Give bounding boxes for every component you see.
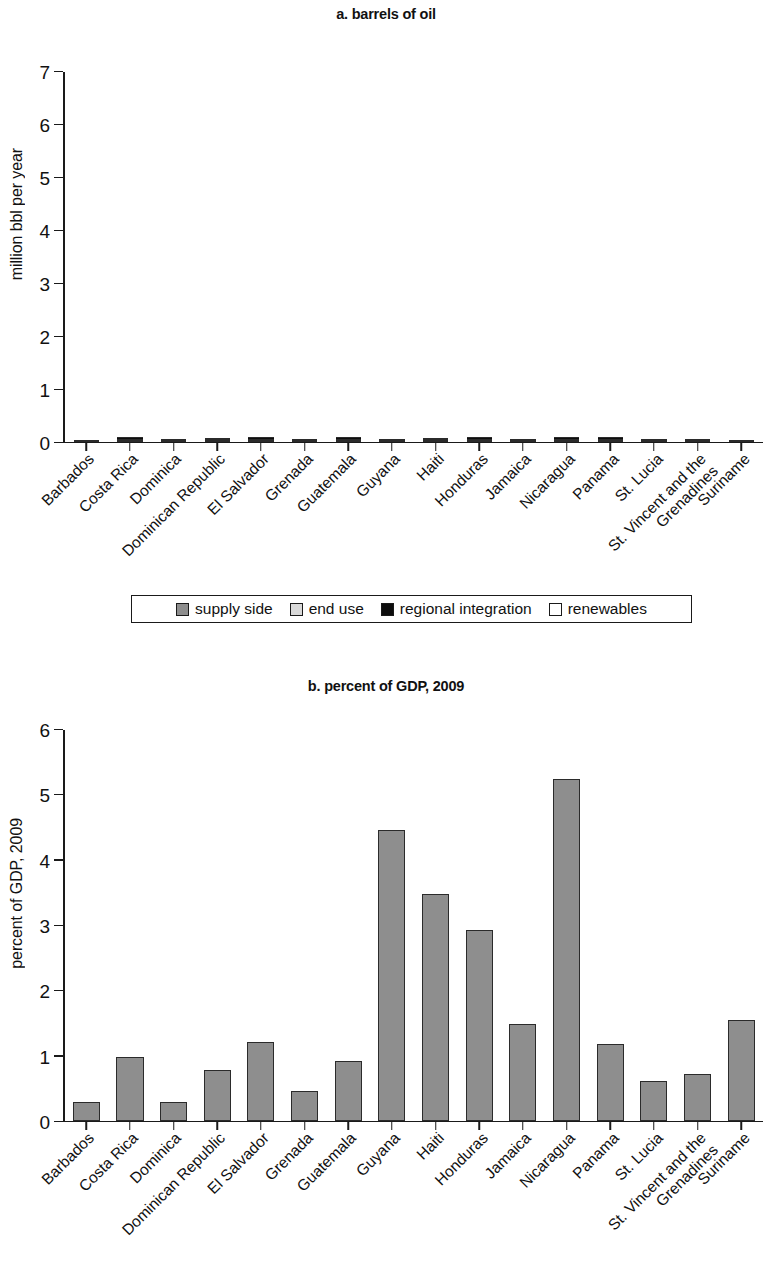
x-label-slot: Nicaragua [544, 1129, 588, 1139]
bar-slot-suriname [719, 72, 763, 442]
x-label-slot: Barbados [63, 1129, 107, 1139]
panel-a-x-axis [63, 442, 763, 444]
bar-slot-haiti [414, 730, 458, 1121]
bar[interactable] [553, 779, 580, 1120]
bar-slot-guatemala [326, 72, 370, 442]
bar-slot-dominican-republic [195, 730, 239, 1121]
x-label-slot: St. Lucia [632, 1129, 676, 1139]
x-label-slot: Costa Rica [107, 450, 151, 460]
bar-slot-costa-rica [108, 730, 152, 1121]
bar[interactable] [204, 1070, 231, 1120]
bar-slot-dominica [152, 72, 196, 442]
y-tick-4 [54, 230, 63, 232]
panel-b-bar-group [65, 730, 764, 1121]
bar[interactable] [466, 930, 493, 1120]
bar-slot-panama [588, 730, 632, 1121]
x-label-slot: Grenada [282, 450, 326, 460]
bar[interactable] [728, 1020, 755, 1121]
bar[interactable] [335, 1061, 362, 1121]
bar-slot-el-salvador [239, 72, 283, 442]
legend-label-renewables: renewables [568, 601, 647, 617]
bar[interactable] [509, 1024, 536, 1120]
bar-slot-st-vincent-and-the-grenadines [676, 72, 720, 442]
legend-label-end-use: end use [309, 601, 364, 617]
panel-b-x-axis [63, 1121, 763, 1123]
y-tick-label-5: 5 [39, 786, 50, 805]
legend-label-supply-side: supply side [195, 601, 273, 617]
y-tick-label-2: 2 [39, 982, 50, 1001]
x-label-slot: Guatemala [326, 1129, 370, 1139]
bar-slot-suriname [719, 730, 763, 1121]
y-tick-label-4: 4 [39, 222, 50, 241]
panel-b-plot-area: 0123456 [63, 730, 763, 1122]
y-tick-1 [54, 1055, 63, 1057]
x-tick-label-st-vincent-and-the-grenadines: St. Vincent and theGrenadines [605, 450, 722, 567]
bar-slot-nicaragua [545, 730, 589, 1121]
bar-slot-barbados [65, 730, 109, 1121]
bar-slot-costa-rica [108, 72, 152, 442]
panel-barrels-of-oil: a. barrels of oil million bbl per year 0… [0, 0, 772, 640]
bar-slot-grenada [283, 72, 327, 442]
y-tick-2 [54, 336, 63, 338]
legend: supply side end use regional integration… [131, 595, 692, 623]
bar[interactable] [160, 1102, 187, 1121]
y-tick-label-2: 2 [39, 328, 50, 347]
y-tick-1 [54, 389, 63, 391]
y-tick-0 [54, 442, 63, 444]
bar-slot-st-lucia [632, 730, 676, 1121]
legend-label-regional-integration: regional integration [400, 601, 532, 617]
legend-swatch-renewables-icon [549, 603, 562, 616]
panel-b-title: b. percent of GDP, 2009 [0, 660, 772, 694]
x-label-slot: Dominica [151, 450, 195, 460]
bar[interactable] [291, 1091, 318, 1120]
y-tick-label-0: 0 [39, 434, 50, 453]
y-tick-2 [54, 990, 63, 992]
bar[interactable] [640, 1081, 667, 1121]
bar-slot-guyana [370, 72, 414, 442]
bar[interactable] [247, 1042, 274, 1121]
y-tick-label-6: 6 [39, 721, 50, 740]
bar-slot-dominica [152, 730, 196, 1121]
bar-slot-st-vincent-and-the-grenadines [676, 730, 720, 1121]
legend-swatch-regional-integration-icon [381, 603, 394, 616]
x-label-slot: Grenada [282, 1129, 326, 1139]
x-label-slot: St. Lucia [632, 450, 676, 460]
x-label-slot: Haiti [413, 450, 457, 460]
x-label-slot: Barbados [63, 450, 107, 460]
x-label-slot: Dominican Republic [194, 1129, 238, 1139]
bar-slot-barbados [65, 72, 109, 442]
bar[interactable] [597, 1044, 624, 1120]
y-tick-label-3: 3 [39, 917, 50, 936]
y-tick-label-4: 4 [39, 851, 50, 870]
x-label-slot: Dominican Republic [194, 450, 238, 460]
x-tick-label-line: Haiti [413, 450, 447, 484]
y-tick-5 [54, 794, 63, 796]
x-label-slot: St. Vincent and theGrenadines [676, 1129, 720, 1139]
y-tick-6 [54, 729, 63, 731]
y-tick-label-1: 1 [39, 381, 50, 400]
y-tick-3 [54, 925, 63, 927]
bar[interactable] [73, 1102, 100, 1120]
x-label-slot: Nicaragua [544, 450, 588, 460]
bar-slot-haiti [414, 72, 458, 442]
y-tick-7 [54, 71, 63, 73]
bar[interactable] [116, 1057, 143, 1120]
y-tick-4 [54, 859, 63, 861]
panel-a-y-axis-title: million bbl per year [8, 148, 26, 280]
bar-slot-honduras [457, 730, 501, 1121]
bar[interactable] [422, 894, 449, 1120]
panel-b-y-axis-title: percent of GDP, 2009 [8, 818, 26, 969]
bar[interactable] [684, 1074, 711, 1120]
bar[interactable] [378, 830, 405, 1121]
y-tick-label-7: 7 [39, 63, 50, 82]
legend-swatch-supply-side-icon [176, 603, 189, 616]
x-label-slot: Honduras [457, 450, 501, 460]
legend-item-renewables: renewables [549, 601, 647, 617]
y-tick-5 [54, 177, 63, 179]
x-label-slot: Suriname [719, 1129, 763, 1139]
bar-slot-st-lucia [632, 72, 676, 442]
x-label-slot: Guatemala [326, 450, 370, 460]
bar-slot-dominican-republic [195, 72, 239, 442]
x-label-slot: Honduras [457, 1129, 501, 1139]
x-label-slot: Dominica [151, 1129, 195, 1139]
